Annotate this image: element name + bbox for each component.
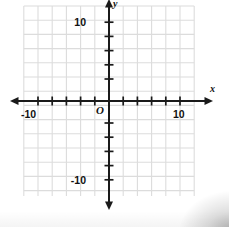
coordinate-plane-svg: -10 10 10 -10 O x y bbox=[0, 0, 229, 227]
page-root: -10 10 10 -10 O x y bbox=[0, 0, 229, 227]
y-axis-label: y bbox=[112, 0, 118, 9]
x-axis bbox=[10, 97, 213, 106]
x-axis-label: x bbox=[209, 83, 215, 94]
y-tick-label-negative-ten: -10 bbox=[71, 174, 86, 186]
arrow-left-icon bbox=[10, 97, 19, 105]
arrow-up-icon bbox=[105, 0, 113, 8]
x-tick-label-negative-ten: -10 bbox=[21, 108, 36, 120]
arrow-down-icon bbox=[105, 202, 113, 211]
x-tick-label-positive-ten: 10 bbox=[173, 108, 185, 120]
coordinate-plane-figure: -10 10 10 -10 O x y bbox=[0, 0, 229, 227]
arrow-right-icon bbox=[205, 97, 214, 105]
origin-label: O bbox=[96, 104, 104, 116]
y-tick-label-positive-ten: 10 bbox=[74, 16, 86, 28]
